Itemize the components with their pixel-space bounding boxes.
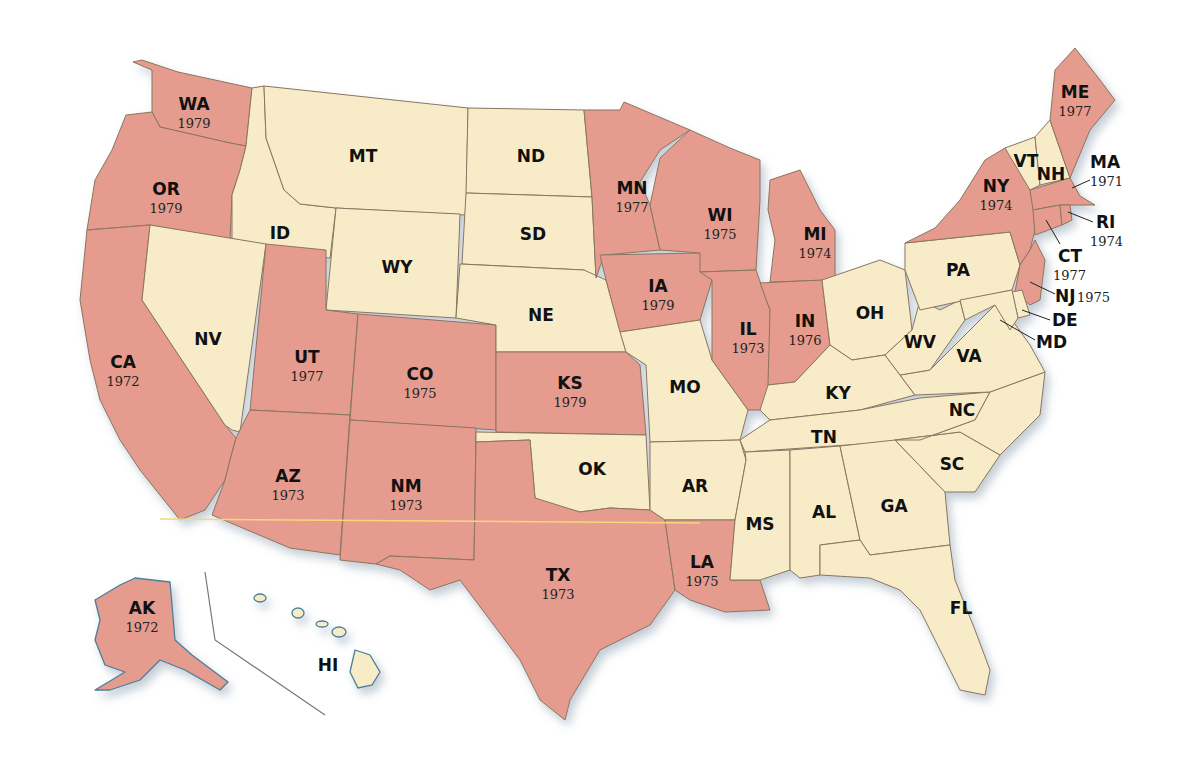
label-LA: LA [690, 552, 715, 572]
year-LA: 1975 [685, 574, 718, 589]
state-RI[interactable] [1060, 205, 1072, 225]
year-WI: 1975 [703, 227, 736, 242]
label-NC: NC [949, 400, 976, 420]
label-ND: ND [517, 146, 545, 166]
label-NH: NH [1037, 164, 1065, 184]
label-WV: WV [904, 332, 937, 352]
label-NE: NE [528, 305, 554, 325]
label-NV: NV [194, 329, 222, 349]
year-ME: 1977 [1058, 104, 1091, 119]
label-TN: TN [811, 427, 837, 447]
label-MO: MO [669, 377, 700, 397]
label-FL: FL [950, 598, 973, 618]
label-IA: IA [648, 276, 668, 296]
label-MT: MT [349, 146, 378, 166]
label-HI: HI [318, 655, 339, 675]
year-MA: 1971 [1090, 174, 1123, 189]
year-UT: 1977 [290, 369, 323, 384]
label-AR: AR [682, 476, 708, 496]
label-KY: KY [825, 383, 851, 403]
label-NJ: NJ [1055, 286, 1076, 306]
label-VA: VA [956, 346, 982, 366]
label-TX: TX [546, 565, 571, 585]
label-OH: OH [856, 303, 885, 323]
year-AZ: 1973 [271, 488, 304, 503]
year-NM: 1973 [389, 498, 422, 513]
year-NJ: 1975 [1077, 290, 1110, 305]
label-UT: UT [294, 347, 320, 367]
label-KS: KS [557, 373, 582, 393]
year-KS: 1979 [553, 395, 586, 410]
us-map: WA 1979 OR 1979 CA 1972 ID NV MT WY UT 1… [0, 0, 1178, 765]
label-NY: NY [983, 176, 1010, 196]
label-WY: WY [381, 257, 413, 277]
year-OR: 1979 [149, 201, 182, 216]
label-DE: DE [1052, 310, 1078, 330]
label-CA: CA [110, 352, 136, 372]
state-WI[interactable] [650, 130, 760, 272]
label-RI: RI [1096, 212, 1115, 232]
label-CO: CO [407, 364, 434, 384]
state-KS[interactable] [496, 352, 646, 435]
label-MI: MI [803, 224, 826, 244]
year-IA: 1979 [641, 298, 674, 313]
label-MA: MA [1090, 152, 1121, 172]
label-NM: NM [390, 476, 421, 496]
label-MD: MD [1036, 332, 1067, 352]
state-CT[interactable] [1033, 205, 1062, 235]
year-IN: 1976 [788, 333, 821, 348]
label-IL: IL [739, 319, 756, 339]
label-ID: ID [270, 223, 290, 243]
label-MS: MS [745, 514, 774, 534]
label-OK: OK [578, 459, 606, 479]
label-VT: VT [1014, 151, 1039, 171]
inset-divider [205, 572, 325, 715]
year-IL: 1973 [731, 341, 764, 356]
year-MI: 1974 [798, 246, 831, 261]
label-PA: PA [946, 260, 971, 280]
label-MN: MN [616, 178, 647, 198]
year-MN: 1977 [615, 200, 648, 215]
label-ME: ME [1061, 82, 1090, 102]
year-CA: 1972 [106, 374, 139, 389]
label-AL: AL [812, 502, 836, 522]
year-RI: 1974 [1090, 234, 1123, 249]
label-WI: WI [707, 205, 732, 225]
label-AZ: AZ [275, 466, 300, 486]
label-AK: AK [129, 598, 156, 618]
label-GA: GA [880, 496, 908, 516]
year-TX: 1973 [541, 587, 574, 602]
year-CO: 1975 [403, 386, 436, 401]
label-IN: IN [795, 311, 816, 331]
year-AK: 1972 [125, 620, 158, 635]
label-CT: CT [1058, 246, 1082, 266]
label-OR: OR [152, 179, 180, 199]
label-WA: WA [178, 94, 210, 114]
year-NY: 1974 [979, 198, 1012, 213]
label-SD: SD [520, 224, 546, 244]
label-SC: SC [940, 454, 965, 474]
year-WA: 1979 [177, 116, 210, 131]
year-CT: 1977 [1053, 268, 1086, 283]
